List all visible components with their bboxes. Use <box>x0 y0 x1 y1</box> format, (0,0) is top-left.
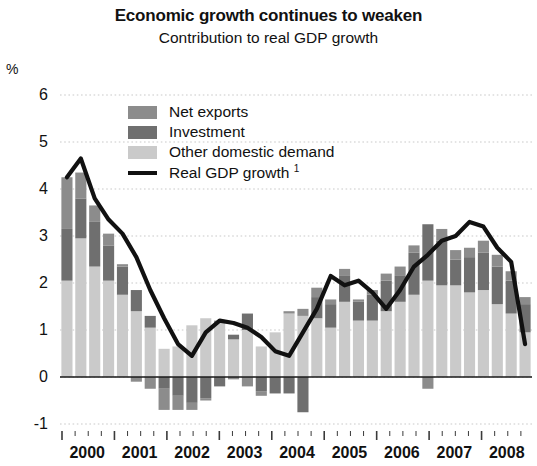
bar-segment <box>284 377 295 393</box>
bar-segment <box>325 304 336 328</box>
bar-segment <box>75 198 86 238</box>
y-axis-tick-label: 0 <box>4 368 48 386</box>
bar-segment <box>464 248 475 257</box>
bar-segment <box>200 377 211 398</box>
legend-item: Investment <box>128 124 368 141</box>
x-tick-marks <box>62 431 521 440</box>
y-axis-tick-label: 5 <box>4 133 48 151</box>
bar-segment <box>103 245 114 280</box>
bar-segment <box>159 377 170 389</box>
bar-segment <box>367 321 378 377</box>
bar-segment <box>61 281 72 377</box>
bar-segment <box>61 177 72 229</box>
plot-area <box>0 0 537 466</box>
x-axis-tick-label: 2001 <box>122 444 158 462</box>
bar-segment <box>159 389 170 410</box>
bar-segment <box>117 295 128 377</box>
x-axis-tick-label: 2006 <box>384 444 420 462</box>
bar-segment <box>436 285 447 377</box>
x-axis-tick-label: 2007 <box>437 444 473 462</box>
bar-segment <box>75 238 86 377</box>
bar-segment <box>270 377 281 393</box>
bar-segment <box>464 292 475 377</box>
bar-segment <box>381 274 392 281</box>
footnote-marker: 1 <box>294 163 300 174</box>
bar-segment <box>89 267 100 377</box>
x-axis-tick-label: 2004 <box>279 444 315 462</box>
legend-item: Other domestic demand <box>128 144 368 161</box>
bar-segment <box>61 229 72 281</box>
bar-segment <box>520 297 531 304</box>
x-axis-tick-label: 2005 <box>332 444 368 462</box>
legend-item: Real GDP growth 1 <box>128 164 368 181</box>
chart-legend: Net exportsInvestmentOther domestic dema… <box>128 104 368 184</box>
bar-segment <box>103 281 114 377</box>
legend-line-marker <box>128 171 157 175</box>
bar-segment <box>464 257 475 292</box>
bar-segment <box>131 290 142 311</box>
bar-segment <box>172 396 183 410</box>
y-axis-tick-label: 1 <box>4 321 48 339</box>
bar-segment <box>395 302 406 377</box>
chart-container: Economic growth continues to weaken Cont… <box>0 0 537 466</box>
bar-segment <box>103 234 114 246</box>
bar-segment <box>242 330 253 377</box>
bar-segment <box>450 285 461 377</box>
bar-segment <box>395 267 406 276</box>
bar-segment <box>256 346 267 377</box>
bar-segment <box>325 299 336 304</box>
bar-segment <box>200 398 211 400</box>
bar-segment <box>311 318 322 377</box>
bar-segment <box>353 302 364 321</box>
bar-segment <box>186 403 197 410</box>
bar-segment <box>256 377 267 391</box>
legend-color-swatch <box>128 146 157 159</box>
bar-segment <box>339 276 350 302</box>
legend-item-label: Investment <box>169 123 245 141</box>
bar-segment <box>339 302 350 377</box>
y-axis-tick-label: -1 <box>4 415 48 433</box>
y-axis-tick-label: 4 <box>4 180 48 198</box>
bar-segment <box>75 173 86 199</box>
bar-segment <box>117 264 128 266</box>
legend-color-swatch <box>128 126 157 139</box>
legend-item: Net exports <box>128 104 368 121</box>
bar-segment <box>145 316 156 328</box>
bar-segment <box>172 346 183 377</box>
bar-segment <box>422 281 433 377</box>
y-axis-tick-label: 3 <box>4 227 48 245</box>
bar-segment <box>214 323 225 377</box>
bar-segment <box>284 311 295 313</box>
bar-segment <box>353 299 364 301</box>
bar-segment <box>159 349 170 377</box>
bar-segment <box>353 321 364 377</box>
bar-segment <box>214 377 225 386</box>
x-axis-tick-label: 2002 <box>174 444 210 462</box>
bar-segment <box>450 250 461 259</box>
bar-segment <box>408 245 419 252</box>
bar-segment <box>381 311 392 377</box>
bar-segment <box>117 267 128 295</box>
x-axis-tick-label: 2003 <box>227 444 263 462</box>
bar-segment <box>450 260 461 286</box>
bar-segment <box>297 377 308 412</box>
y-axis-tick-label: 2 <box>4 274 48 292</box>
bar-segment <box>172 377 183 396</box>
bar-segment <box>145 377 156 389</box>
bar-segment <box>256 391 267 396</box>
legend-item-label: Other domestic demand <box>169 143 334 161</box>
x-axis-tick-label: 2008 <box>489 444 525 462</box>
y-axis-tick-label: 6 <box>4 86 48 104</box>
bar-segment <box>506 314 517 377</box>
bar-segment <box>242 377 253 386</box>
bar-segment <box>145 328 156 377</box>
bar-segment <box>478 241 489 253</box>
legend-item-label: Real GDP growth 1 <box>169 163 299 182</box>
bar-segment <box>186 377 197 403</box>
x-axis-tick-label: 2000 <box>69 444 105 462</box>
legend-color-swatch <box>128 106 157 119</box>
bar-segment <box>325 328 336 377</box>
bar-segment <box>492 267 503 305</box>
bar-segment <box>297 309 308 316</box>
bar-segment <box>228 335 239 340</box>
